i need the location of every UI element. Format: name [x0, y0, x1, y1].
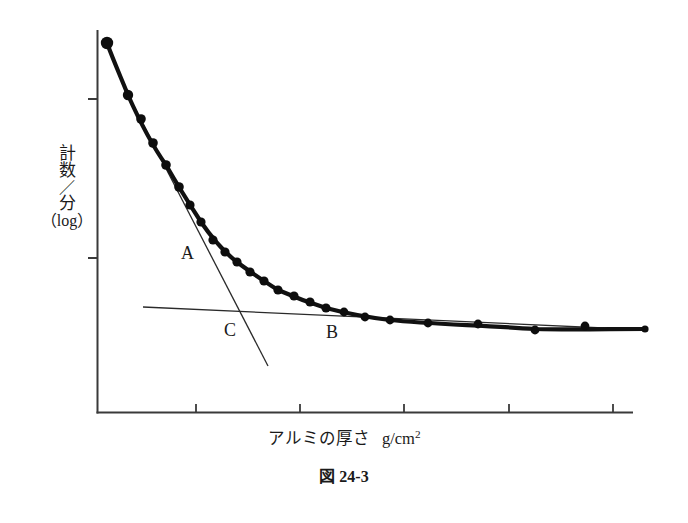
data-point	[185, 200, 194, 209]
data-point	[531, 326, 540, 335]
data-point	[361, 313, 370, 322]
data-point	[245, 267, 254, 276]
data-point	[474, 320, 483, 329]
x-axis-ticks	[196, 404, 613, 413]
y-axis-label-log: （log）	[38, 213, 96, 229]
figure-caption: 図 24-3	[0, 463, 688, 487]
data-point	[174, 182, 184, 192]
x-axis-unit-base: g/cm	[382, 429, 415, 448]
data-point	[305, 297, 314, 306]
data-point	[581, 322, 590, 331]
data-point-markers	[101, 37, 649, 335]
x-axis-label: アルミの厚さ g/cm2	[0, 425, 688, 449]
data-point	[208, 235, 217, 244]
data-point	[289, 291, 298, 300]
data-point	[232, 257, 241, 266]
data-point	[386, 316, 395, 325]
data-point	[259, 276, 268, 285]
data-point	[220, 247, 229, 256]
data-point	[321, 303, 330, 312]
data-point	[273, 285, 282, 294]
data-point	[123, 90, 133, 100]
data-point	[136, 114, 146, 124]
data-point	[161, 160, 171, 170]
x-axis-label-unit: g/cm2	[374, 429, 421, 448]
x-axis-label-text: アルミの厚さ	[268, 429, 370, 448]
figure-container: 計 数 ／ 分 （log） アルミの厚さ g/cm2 A B C 図 24-3	[0, 0, 688, 523]
x-axis-unit-exponent: 2	[415, 428, 421, 440]
y-axis-label-char-4: 分	[38, 195, 96, 212]
annotation-label-a: A	[181, 243, 194, 264]
data-point	[340, 308, 349, 317]
y-axis-label-char-2: 数	[38, 162, 96, 179]
data-point	[101, 37, 113, 49]
y-axis-label-char-1: 計	[38, 145, 96, 162]
annotation-label-c: C	[224, 320, 236, 341]
annotation-label-b: B	[326, 322, 338, 343]
data-point	[641, 325, 648, 332]
data-point	[424, 319, 433, 328]
absorption-curve-path	[107, 43, 645, 329]
y-axis-label: 計 数 ／ 分 （log）	[38, 145, 96, 229]
data-point	[196, 217, 205, 226]
y-axis-label-char-3: ／	[38, 180, 96, 195]
data-point	[148, 138, 158, 148]
